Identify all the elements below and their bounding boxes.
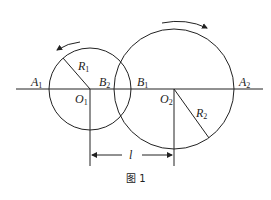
- two-circles-diagram: A1 R1 B2 B1 A2 O1 O2 R2 l 图 1: [0, 0, 271, 200]
- figure-caption: 图 1: [126, 173, 146, 184]
- label-o1: O1: [75, 92, 88, 107]
- label-b1: B1: [137, 75, 148, 90]
- label-r2: R2: [195, 106, 207, 121]
- label-l: l: [129, 148, 133, 162]
- label-o2: O2: [160, 92, 173, 107]
- label-b2: B2: [99, 75, 110, 90]
- label-a1: A1: [30, 75, 42, 90]
- label-r1: R1: [77, 59, 89, 74]
- rotation-arrow-cw-icon: [162, 21, 207, 28]
- rotation-arrow-ccw-icon: [57, 42, 80, 50]
- label-a2: A2: [238, 75, 250, 90]
